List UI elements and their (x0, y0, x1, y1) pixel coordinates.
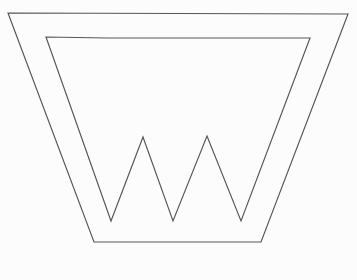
figure-canvas: Geometric line drawing of a letter W ins… (0, 0, 357, 280)
inner-w-shape (46, 37, 310, 221)
line-drawing-svg: Geometric line drawing of a letter W ins… (0, 0, 357, 280)
